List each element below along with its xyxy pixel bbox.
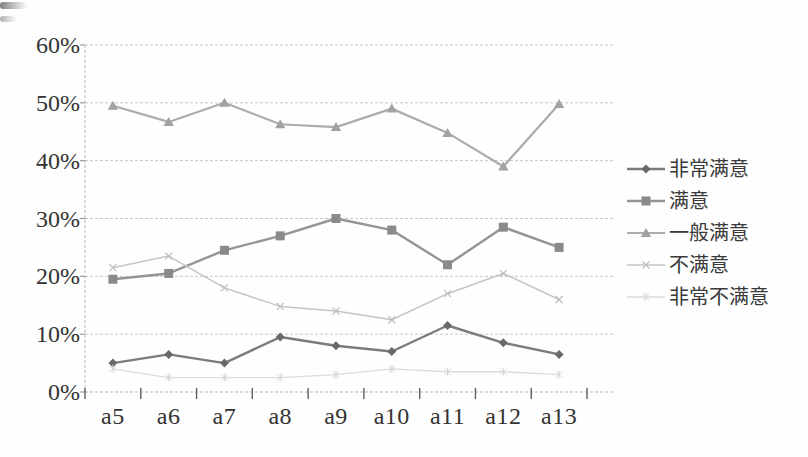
square-marker-icon [387,226,396,235]
x-axis-label: a7 [213,403,237,429]
y-axis-label: 40% [36,148,80,174]
x-marker-icon [221,284,228,291]
diamond-marker-icon [387,347,396,356]
y-axis-label: 30% [36,206,80,232]
square-marker-icon [499,223,508,232]
x-axis-label: a10 [374,403,410,429]
legend-label: 非常不满意 [669,285,769,309]
x-axis-label: a13 [541,403,577,429]
x-axis-label: a11 [430,403,465,429]
legend-label: 非常满意 [669,157,749,181]
square-marker-icon [555,243,564,252]
square-marker-icon [332,214,341,223]
series-line-3 [113,103,559,167]
diamond-marker-icon [443,321,452,330]
legend-item-5: 非常不满意 [626,285,769,309]
square-marker-icon [642,197,651,206]
legend-item-1: 非常满意 [626,157,769,181]
legend-item-4: 不满意 [626,253,769,277]
legend-item-3: 一般满意 [626,221,769,245]
x-marker-icon [556,296,563,303]
x-axis-label: a8 [268,403,292,429]
square-marker-icon [276,231,285,240]
legend-label: 不满意 [669,253,729,277]
x-axis-label: a5 [101,403,125,429]
y-axis-label: 60% [36,32,80,58]
square-marker-icon [108,275,117,284]
legend-triangle-sample-icon [626,225,666,241]
diamond-marker-icon [164,350,173,359]
triangle-marker-icon [108,101,118,110]
triangle-marker-icon [554,99,564,108]
x-axis-label: a12 [485,403,521,429]
x-marker-icon [500,270,507,277]
triangle-marker-icon [387,104,397,113]
figure: 0%10%20%30%40%50%60%a5a6a7a8a9a10a11a12a… [0,0,808,457]
y-axis-label: 50% [36,90,80,116]
legend-diamond-sample-icon [626,161,666,177]
diamond-marker-icon [555,350,564,359]
square-marker-icon [220,246,229,255]
square-marker-icon [443,260,452,269]
x-marker-icon [444,290,451,297]
series-line-4 [113,256,559,320]
legend-label: 满意 [669,189,709,213]
diamond-marker-icon [499,338,508,347]
x-axis-label: a9 [324,403,348,429]
y-axis-label: 0% [48,379,80,405]
legend-star-sample-icon [626,289,666,305]
series-line-2 [113,219,559,280]
diamond-marker-icon [332,341,341,350]
square-marker-icon [164,269,173,278]
legend-label: 一般满意 [669,221,749,245]
y-axis-label: 10% [36,321,80,347]
diamond-marker-icon [220,359,229,368]
x-axis-label: a6 [157,403,181,429]
legend-item-2: 满意 [626,189,769,213]
y-axis-label: 20% [36,263,80,289]
legend-square-sample-icon [626,193,666,209]
chart-legend: 非常满意满意一般满意不满意非常不满意 [626,157,769,309]
diamond-marker-icon [642,165,651,174]
legend-x-sample-icon [626,257,666,273]
